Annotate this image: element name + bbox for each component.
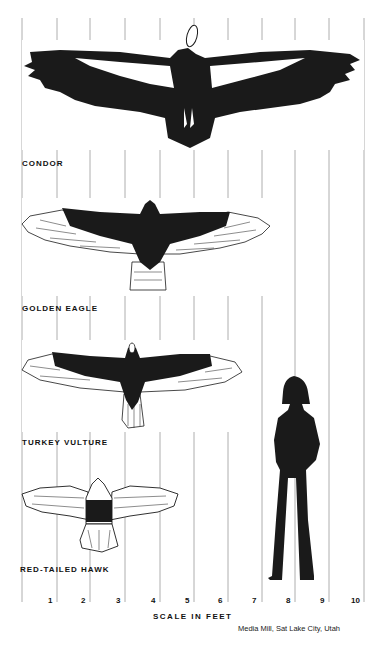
- tick-4: 4: [151, 596, 155, 605]
- credit-text: Media Mill, Sat Lake City, Utah: [238, 624, 340, 633]
- tick-5: 5: [185, 596, 189, 605]
- golden-eagle-silhouette: [22, 198, 272, 296]
- human-silhouette: [268, 376, 320, 580]
- tick-6: 6: [218, 596, 222, 605]
- tick-2: 2: [81, 596, 85, 605]
- red-tailed-hawk-silhouette: [22, 478, 178, 552]
- tick-9: 9: [320, 596, 324, 605]
- condor-label: CONDOR: [22, 159, 64, 168]
- turkey-vulture-silhouette: [22, 340, 244, 432]
- golden-eagle-label: GOLDEN EAGLE: [22, 304, 98, 313]
- tick-10: 10: [351, 596, 360, 605]
- condor-silhouette: [22, 24, 364, 150]
- tick-8: 8: [286, 596, 290, 605]
- wingspan-diagram: CONDOR GOLDEN EAGLE: [0, 0, 377, 650]
- diagram-canvas: CONDOR GOLDEN EAGLE: [0, 0, 377, 650]
- tick-7: 7: [252, 596, 256, 605]
- red-tailed-hawk-label: RED-TAILED HAWK: [20, 565, 110, 574]
- turkey-vulture-label: TURKEY VULTURE: [22, 438, 108, 447]
- tick-1: 1: [48, 596, 52, 605]
- axis-title: SCALE IN FEET: [153, 612, 233, 621]
- tick-3: 3: [116, 596, 120, 605]
